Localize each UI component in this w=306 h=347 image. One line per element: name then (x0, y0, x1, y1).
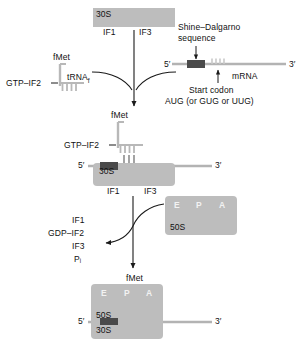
site-p-label-50s: P (196, 200, 202, 210)
site-e-label-50s: E (174, 200, 180, 210)
if1-label-step2: IF1 (107, 186, 120, 196)
site-e-label-70s: E (101, 288, 107, 298)
subunit-50s-free-label: 50S (170, 222, 185, 232)
five-prime-label-step4: 5′ (78, 316, 85, 326)
start-codon-label-line1: Start codon (189, 85, 234, 95)
shine-dalgarno-label-line2: sequence (178, 33, 216, 43)
assembly-arrows-step2 (106, 196, 164, 268)
shine-dalgarno-box (187, 60, 205, 68)
gtp-if2-label-step2: GTP–IF2 (64, 140, 99, 150)
three-prime-label-step1: 3′ (289, 59, 296, 69)
five-prime-label-step1: 5′ (164, 59, 171, 69)
trna-fmet-bound (109, 122, 143, 166)
gtp-if2-label-step1: GTP–IF2 (6, 78, 41, 88)
shine-dalgarno-box-70s (100, 318, 118, 325)
subunit-30s-70s-label: 30S (96, 325, 111, 335)
trna-text: tRNA (67, 72, 88, 82)
fmet-label-step1: fMet (53, 52, 70, 62)
if1-label-step1: IF1 (103, 27, 116, 37)
released-pi: Pᵢ (74, 254, 81, 264)
fmet-label-step2: fMet (111, 110, 128, 120)
shine-dalgarno-label-line1: Shine–Dalgarno (178, 22, 240, 32)
if3-label-step2: IF3 (144, 186, 157, 196)
start-codon-label-line2: AUG (or GUG or UUG) (165, 96, 254, 106)
site-a-label-70s: A (146, 288, 152, 298)
subunit-30s-free-label: 30S (96, 9, 111, 19)
trna-subscript: f (88, 77, 90, 84)
released-if1: IF1 (72, 215, 85, 225)
diagram-canvas: 30S IF1 IF3 fMet GTP–IF2 tRNAf Shine–Dal… (0, 0, 306, 347)
mrna-label-step1: mRNA (232, 71, 257, 81)
three-prime-label-step4: 3′ (215, 316, 222, 326)
three-prime-label-step2: 3′ (215, 160, 222, 170)
if3-label-step1: IF3 (139, 27, 152, 37)
trna-label-step1: tRNAf (67, 72, 90, 86)
fmet-label-step4: fMet (126, 273, 143, 283)
released-gdp-if2: GDP–IF2 (48, 228, 84, 238)
subunit-30s-bound-label: 30S (99, 166, 114, 176)
released-if3: IF3 (72, 241, 85, 251)
five-prime-label-step2: 5′ (78, 160, 85, 170)
site-a-label-50s: A (219, 200, 225, 210)
site-p-label-70s: P (124, 288, 130, 298)
